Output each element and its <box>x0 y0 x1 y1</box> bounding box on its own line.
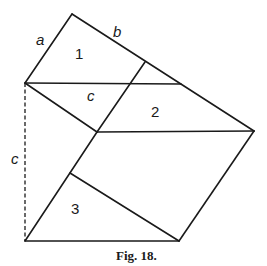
figure-caption: Fig. 18. <box>116 248 157 263</box>
label-b: b <box>113 23 121 40</box>
label-a: a <box>36 31 44 48</box>
label-region-1: 1 <box>75 45 83 62</box>
edge-right <box>179 131 254 241</box>
edge-lower-left <box>25 132 97 241</box>
label-c-inner: c <box>87 87 95 104</box>
edge-b <box>72 14 254 131</box>
edge-triangle-3 <box>70 173 179 241</box>
edge-a <box>25 14 72 83</box>
label-region-3: 3 <box>71 200 79 217</box>
edge-middle-horizontal <box>97 131 254 132</box>
geometry-diagram: a b 1 c 2 c 3 Fig. 18. <box>0 0 267 266</box>
edge-upper-horizontal <box>25 83 181 84</box>
label-region-2: 2 <box>151 103 159 120</box>
edge-inner-diagonal <box>97 62 145 132</box>
label-c-left: c <box>11 150 19 167</box>
